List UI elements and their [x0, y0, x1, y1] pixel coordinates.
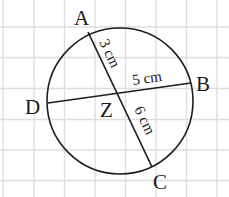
- point-label-d: D: [25, 95, 40, 119]
- chord-ac: [88, 32, 152, 167]
- point-label-a: A: [74, 6, 90, 30]
- point-label-z: Z: [100, 98, 113, 122]
- chord-diagram: A B C D Z 3 cm 5 cm 6 cm: [0, 0, 229, 197]
- point-label-c: C: [153, 170, 167, 194]
- measure-label-zb: 5 cm: [131, 68, 163, 88]
- measure-label-az: 3 cm: [96, 36, 123, 70]
- point-label-b: B: [196, 72, 210, 96]
